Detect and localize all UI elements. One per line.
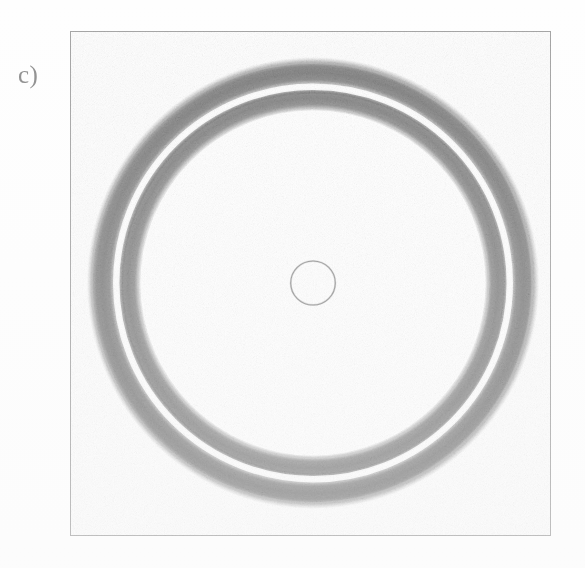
figure-panel: c): [0, 0, 585, 568]
plot-frame: [70, 31, 551, 536]
panel-label: c): [18, 62, 38, 87]
